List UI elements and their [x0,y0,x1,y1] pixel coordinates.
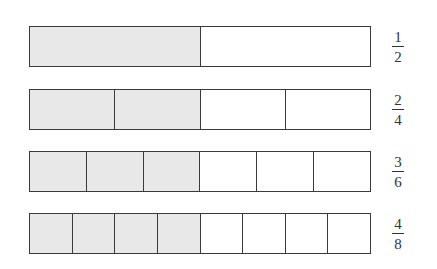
shaded-part [143,152,200,191]
shaded-part [157,214,200,253]
fraction-line [392,233,404,234]
fraction-label: 36 [390,154,406,190]
shaded-part [30,27,200,66]
fraction-bar-2-4 [29,89,371,130]
unshaded-part [200,27,371,66]
numerator: 3 [394,154,402,170]
shaded-part [114,90,199,129]
unshaded-part [256,152,313,191]
unshaded-part [285,214,328,253]
fraction-bar-1-2 [29,26,371,67]
fraction-line [392,109,404,110]
fraction-label: 48 [390,216,406,252]
fraction-line [392,46,404,47]
fraction-label: 12 [390,29,406,65]
unshaded-part [285,90,370,129]
shaded-part [86,152,143,191]
numerator: 4 [394,216,402,232]
shaded-part [30,214,72,253]
denominator: 4 [394,112,402,128]
fraction-line [392,171,404,172]
unshaded-part [242,214,285,253]
unshaded-part [199,152,256,191]
numerator: 2 [394,92,402,108]
shaded-part [114,214,157,253]
unshaded-part [327,214,370,253]
fraction-bar-3-6 [29,151,371,192]
fraction-bar-4-8 [29,213,371,254]
shaded-part [30,90,114,129]
denominator: 6 [394,174,402,190]
denominator: 2 [394,49,402,65]
unshaded-part [200,214,243,253]
shaded-part [72,214,115,253]
denominator: 8 [394,236,402,252]
unshaded-part [313,152,370,191]
shaded-part [30,152,86,191]
numerator: 1 [394,29,402,45]
unshaded-part [200,90,285,129]
fraction-label: 24 [390,92,406,128]
